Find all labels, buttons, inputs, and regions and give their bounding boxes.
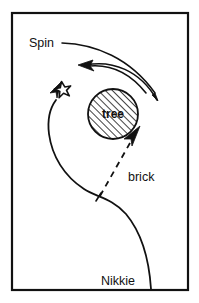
diagram-canvas: Spin tree brick Nikkie [0, 0, 199, 303]
label-brick: brick [128, 170, 155, 184]
label-nikkie: Nikkie [101, 274, 135, 288]
label-tree: tree [102, 107, 124, 121]
label-spin: Spin [29, 36, 54, 50]
figure-root: Spin tree brick Nikkie [0, 0, 199, 303]
